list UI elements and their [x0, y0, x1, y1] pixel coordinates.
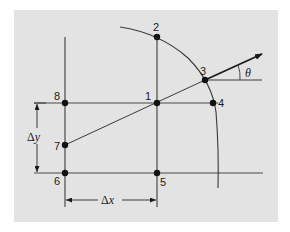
- point-label-2: 2: [153, 21, 159, 33]
- point-3: [202, 77, 208, 83]
- point-label-7: 7: [54, 140, 60, 152]
- point-label-8: 8: [54, 90, 60, 102]
- point-label-5: 5: [160, 176, 166, 188]
- boundary-arc: [120, 27, 218, 188]
- point-1: [154, 100, 160, 106]
- point-4: [210, 100, 216, 106]
- point-7: [62, 142, 68, 148]
- point-2: [154, 34, 160, 40]
- theta-angle-arc: [238, 65, 240, 80]
- direction-vector-arrow: [205, 54, 262, 80]
- point-8: [62, 100, 68, 106]
- grid-diagram: 1 2 3 4 5 6 7 8 Δy Δx θ: [0, 0, 290, 232]
- point-6: [62, 170, 68, 176]
- ray-line-7-to-3: [65, 80, 205, 145]
- dy-label: Δy: [27, 130, 41, 144]
- point-label-4: 4: [218, 97, 224, 109]
- point-label-3: 3: [200, 65, 206, 77]
- point-label-1: 1: [145, 90, 151, 102]
- point-label-6: 6: [54, 175, 60, 187]
- dx-label: Δx: [101, 193, 115, 207]
- theta-label: θ: [245, 66, 251, 80]
